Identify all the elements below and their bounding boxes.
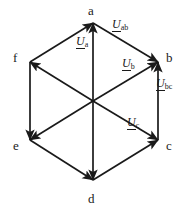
phasor-symbol: U xyxy=(76,34,85,49)
phasor-symbol: U xyxy=(112,17,121,32)
phasor-symbol: U xyxy=(127,115,136,130)
vertex-label-b: b xyxy=(166,51,173,64)
vertex-label-f: f xyxy=(13,51,17,64)
phasor-label-U-b: Ub xyxy=(122,57,135,69)
phasor-label-U-c: Uc xyxy=(127,116,139,128)
phasor-diagram-canvas xyxy=(0,0,186,213)
phasor-symbol: U xyxy=(156,76,165,91)
phasor-diagram-figure: a b c d e f Ua Uab Ub Ubc Uc xyxy=(0,0,186,213)
phasor-symbol: U xyxy=(122,56,131,71)
phasor-subscript: a xyxy=(85,40,89,49)
edge-e-d xyxy=(30,140,93,180)
phasor-label-U-bc: Ubc xyxy=(156,77,172,89)
edge-d-c xyxy=(93,140,158,180)
vertex-label-c: c xyxy=(166,139,172,152)
vertex-label-a: a xyxy=(88,4,94,17)
diagonal-center-to-e xyxy=(30,101,93,140)
vertex-label-e: e xyxy=(13,139,19,152)
diagonal-center-to-c xyxy=(93,101,158,140)
phasor-subscript: c xyxy=(136,121,140,130)
phasor-diagonals xyxy=(30,23,158,180)
phasor-subscript: ab xyxy=(121,23,129,32)
vertex-label-d: d xyxy=(88,192,95,205)
phasor-subscript: b xyxy=(131,62,135,71)
phasor-subscript: bc xyxy=(165,82,173,91)
phasor-label-U-a: Ua xyxy=(76,35,88,47)
phasor-label-U-ab: Uab xyxy=(112,18,128,30)
diagonal-center-to-f xyxy=(30,62,93,101)
